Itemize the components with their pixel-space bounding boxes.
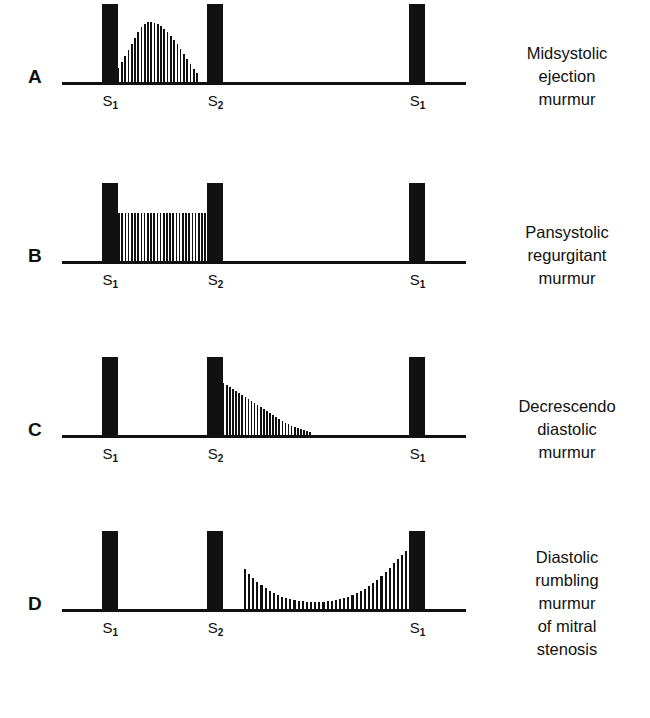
murmur-waveform-u-curve [244,519,410,609]
murmur-stripe [260,585,262,609]
murmur-stripe [196,73,198,82]
murmur-stripe [248,399,250,435]
murmur-stripe [252,578,254,609]
heart-sound-label-s1-0: S1 [103,619,119,636]
murmur-stripe [163,213,165,261]
murmur-stripe [318,602,320,609]
heart-sound-bar-s1-0 [102,531,118,609]
murmur-stripe [282,421,284,435]
murmur-stripe [193,69,195,82]
heart-sound-bar-s1-0 [102,4,118,82]
murmur-stripe [179,213,181,261]
murmur-stripe [368,586,370,609]
heart-sound-label-s2-1: S2 [208,271,224,288]
panel-caption-b: Pansystolicregurgitantmurmur [482,221,650,290]
murmur-stripe [232,389,234,435]
heart-sound-bar-s1-0 [102,183,118,261]
murmur-stripe [176,213,178,261]
caption-line: murmur [482,88,650,111]
murmur-stripe [141,27,143,82]
murmur-stripe [360,591,362,609]
heart-sound-label-s1-2: S1 [410,445,426,462]
murmur-stripe [265,588,267,609]
murmur-stripe [269,413,271,435]
murmur-stripe [272,415,274,435]
heart-sound-label-s2-1: S2 [208,619,224,636]
murmur-stripe [335,600,337,609]
murmur-stripe [288,424,290,435]
murmur-stripe [339,599,341,609]
murmur-stripe [254,403,256,435]
murmur-stripe [229,387,231,435]
panel-b: BS1S2S1Pansystolicregurgitantmurmur [0,179,650,358]
caption-line: Decrescendo [482,395,650,418]
heart-sound-label-s1-2: S1 [410,271,426,288]
murmur-stripe [347,597,349,609]
murmur-stripe [364,589,366,609]
baseline [62,435,466,438]
murmur-stripe [294,427,296,435]
murmur-stripe [309,432,311,435]
heart-sound-label-s1-0: S1 [103,445,119,462]
caption-line: regurgitant [482,244,650,267]
murmur-stripe [137,32,139,82]
heart-sound-label-s1-0: S1 [103,92,119,109]
murmur-stripe [281,597,283,609]
murmur-stripe [380,576,382,609]
murmur-stripe [297,428,299,435]
heart-sound-bar-s2-1 [207,531,223,609]
murmur-stripe [263,409,265,435]
murmur-stripe [251,401,253,435]
caption-line: Diastolic [482,546,650,569]
heart-sound-bar-s2-1 [207,183,223,261]
murmur-stripe [331,601,333,609]
panel-letter-a: A [28,66,42,88]
panel-letter-c: C [28,419,42,441]
murmur-stripe [167,32,169,82]
murmur-stripe [306,602,308,609]
murmur-stripe [144,24,146,82]
murmur-stripe [260,407,262,435]
panel-d: DS1S2S1Diastolicrumblingmurmurof mitrals… [0,527,650,706]
murmur-stripe [150,213,152,261]
heart-sound-bar-s1-2 [409,4,425,82]
murmur-stripe [160,26,162,82]
murmur-stripe [173,40,175,82]
murmur-stripe [372,583,374,609]
murmur-stripe [302,601,304,609]
murmur-stripe [278,419,280,435]
murmur-stripe [141,213,143,261]
baseline [62,82,466,85]
murmur-stripe [160,213,162,261]
murmur-stripe [356,593,358,609]
murmur-stripe [150,22,152,82]
caption-line: murmur [482,267,650,290]
murmur-stripe [289,599,291,609]
murmur-stripe [385,572,387,609]
murmur-stripe [306,431,308,435]
murmur-stripe [273,593,275,609]
caption-line: of mitral [482,615,650,638]
murmur-stripe [266,411,268,435]
murmur-stripe [166,213,168,261]
murmur-stripe [285,423,287,435]
murmur-stripe [303,430,305,435]
murmur-stripe [198,213,200,261]
murmur-stripe [192,213,194,261]
murmur-stripe [256,582,258,609]
murmur-stripe [154,23,156,82]
murmur-stripe [201,213,203,261]
murmur-stripe [389,568,391,609]
murmur-stripe [257,405,259,435]
murmur-stripe [245,397,247,435]
murmur-stripe [376,580,378,609]
murmur-waveform-diamond [115,0,200,82]
murmur-stripe [147,22,149,82]
panel-c: CS1S2S1Decrescendodiastolicmurmur [0,353,650,532]
murmur-stripe [121,62,123,82]
murmur-stripe [163,29,165,82]
panel-caption-c: Decrescendodiastolicmurmur [482,395,650,464]
caption-line: rumbling [482,569,650,592]
murmur-stripe [291,426,293,435]
murmur-stripe [238,393,240,435]
